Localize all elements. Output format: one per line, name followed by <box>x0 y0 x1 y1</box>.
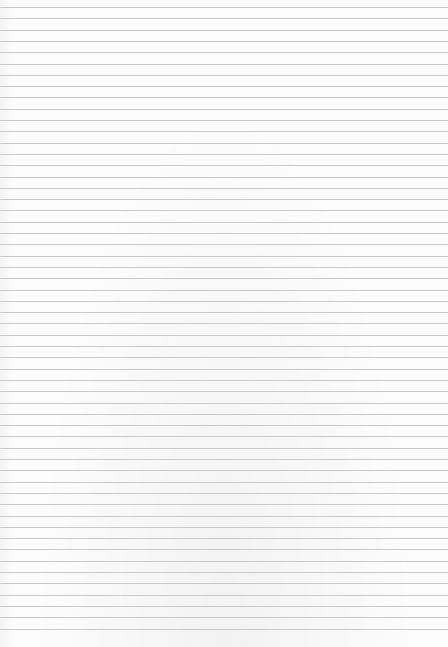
ruled-line <box>0 470 448 471</box>
ruled-line <box>0 52 448 53</box>
ruled-line <box>0 222 448 223</box>
ruled-line <box>0 30 448 31</box>
ruled-line <box>0 233 448 234</box>
ruled-line <box>0 414 448 415</box>
lined-paper <box>0 0 448 647</box>
ruled-line <box>0 403 448 404</box>
ruled-line <box>0 516 448 517</box>
ruled-line <box>0 18 448 19</box>
ruled-line <box>0 64 448 65</box>
ruled-line <box>0 527 448 528</box>
ruled-line <box>0 312 448 313</box>
ruled-line <box>0 595 448 596</box>
ruled-line <box>0 335 448 336</box>
ruled-line <box>0 425 448 426</box>
ruled-line <box>0 199 448 200</box>
ruled-line <box>0 177 448 178</box>
ruled-line <box>0 380 448 381</box>
ruled-line <box>0 109 448 110</box>
ruled-line <box>0 357 448 358</box>
ruled-line <box>0 369 448 370</box>
ruled-line <box>0 391 448 392</box>
ruled-line <box>0 538 448 539</box>
ruled-line <box>0 7 448 8</box>
ruled-line <box>0 504 448 505</box>
ruled-line <box>0 561 448 562</box>
ruled-line <box>0 188 448 189</box>
ruled-line <box>0 482 448 483</box>
ruled-line <box>0 583 448 584</box>
ruled-line <box>0 154 448 155</box>
ruled-line <box>0 131 448 132</box>
ruled-line <box>0 572 448 573</box>
ruled-line <box>0 493 448 494</box>
ruled-line <box>0 75 448 76</box>
ruled-line <box>0 97 448 98</box>
ruled-line <box>0 256 448 257</box>
ruled-line <box>0 41 448 42</box>
ruled-line <box>0 244 448 245</box>
ruled-line <box>0 290 448 291</box>
ruled-line <box>0 86 448 87</box>
ruled-line <box>0 436 448 437</box>
ruled-line <box>0 606 448 607</box>
ruled-line <box>0 210 448 211</box>
ruled-line <box>0 278 448 279</box>
ruled-line <box>0 301 448 302</box>
ruled-line <box>0 165 448 166</box>
ruled-line <box>0 549 448 550</box>
ruled-line <box>0 346 448 347</box>
ruled-line <box>0 143 448 144</box>
ruled-line <box>0 459 448 460</box>
ruled-line <box>0 629 448 630</box>
ruled-line <box>0 267 448 268</box>
ruled-line <box>0 120 448 121</box>
ruled-line <box>0 448 448 449</box>
ruled-line <box>0 617 448 618</box>
ruled-line <box>0 323 448 324</box>
